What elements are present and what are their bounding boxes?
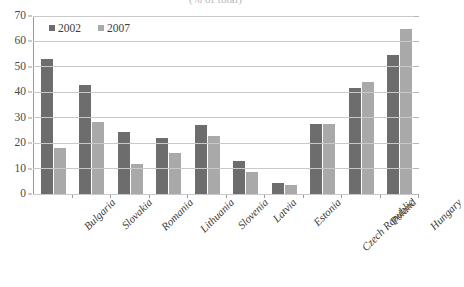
y-axis-tick-right — [414, 168, 419, 169]
y-axis-tick-label: 10 — [15, 163, 27, 175]
x-axis-category-label: Bulgaria — [81, 196, 117, 232]
gridline — [33, 168, 419, 169]
gridline — [33, 92, 419, 93]
x-axis-category-label: Lithuania — [198, 196, 237, 235]
y-axis-tick — [28, 117, 32, 118]
y-axis-tick-label: 60 — [15, 36, 27, 48]
y-axis-tick-right — [414, 41, 419, 42]
gridline — [33, 16, 419, 17]
bar-2007 — [362, 82, 374, 194]
bar-2007 — [400, 29, 412, 194]
y-axis-tick-right — [414, 143, 419, 144]
y-axis-tick — [28, 41, 32, 42]
y-axis-tick-label: 30 — [15, 112, 27, 124]
y-axis-tick-label: 40 — [15, 87, 27, 99]
legend-label: 2002 — [58, 22, 81, 34]
y-axis-tick-label: 70 — [15, 10, 27, 22]
bar-2007 — [92, 122, 104, 194]
bar-2007 — [169, 153, 181, 194]
y-axis-tick — [28, 92, 32, 93]
bar-2002 — [272, 183, 284, 194]
legend-label: 2007 — [107, 22, 130, 34]
bar-2007 — [246, 172, 258, 194]
x-axis-category-label: Hungary — [427, 196, 463, 232]
bar-2002 — [195, 125, 207, 194]
bar-2002 — [79, 85, 91, 194]
x-axis-labels: BulgariaSlovakiaRomaniaLithuaniaSlovenia… — [34, 196, 419, 284]
y-axis-tick — [28, 143, 32, 144]
bar-2002 — [41, 59, 53, 194]
y-axis-tick-label: 20 — [15, 137, 27, 149]
chart-legend: 20022007 — [49, 22, 130, 34]
legend-item-2007: 2007 — [98, 22, 130, 34]
x-axis-category-label: Slovenia — [235, 196, 270, 231]
gridline — [33, 117, 419, 118]
y-axis-tick-right — [414, 117, 419, 118]
bar-2007 — [208, 136, 220, 194]
bar-2007 — [54, 148, 66, 194]
x-axis-category-label: Estonia — [310, 196, 342, 228]
legend-swatch-icon — [49, 25, 55, 31]
gridline — [33, 41, 419, 42]
y-axis-tick-right — [414, 66, 419, 67]
gridline — [33, 66, 419, 67]
y-axis-tick-label: 0 — [20, 188, 26, 200]
bar-2002 — [156, 138, 168, 194]
y-axis-tick-right — [414, 194, 419, 195]
y-axis-tick — [28, 194, 32, 195]
y-axis-tick-right — [414, 16, 419, 17]
y-axis-tick-label: 50 — [15, 61, 27, 73]
bar-2002 — [387, 55, 399, 194]
bar-2007 — [323, 124, 335, 194]
bar-2002 — [118, 132, 130, 194]
x-axis-category-label: Slovakia — [119, 196, 154, 231]
y-axis-tick — [28, 16, 32, 17]
x-axis-category-label: Romania — [158, 196, 195, 233]
chart-title: (% of total) — [0, 0, 431, 5]
bar-2002 — [310, 124, 322, 194]
x-axis-category-label: Latvia — [270, 196, 298, 224]
y-axis-labels: 010203040506070 — [0, 16, 30, 194]
plot-area — [33, 16, 419, 194]
bar-2002 — [233, 161, 245, 194]
gridline — [33, 194, 419, 195]
legend-swatch-icon — [98, 25, 104, 31]
y-axis-tick — [28, 66, 32, 67]
gridline — [33, 143, 419, 144]
bar-2002 — [349, 88, 361, 194]
y-axis-tick — [28, 168, 32, 169]
y-axis-tick-right — [414, 92, 419, 93]
legend-item-2002: 2002 — [49, 22, 81, 34]
